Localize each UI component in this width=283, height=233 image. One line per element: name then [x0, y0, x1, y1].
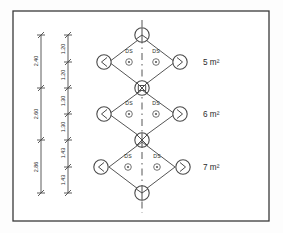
- node-3-right: [176, 160, 190, 174]
- sprinkler-1-left: [126, 59, 133, 66]
- node-3-left: [94, 160, 108, 174]
- outer-dim-label-3: 2.86: [33, 162, 39, 173]
- ds-label-3-left: DS: [124, 153, 132, 159]
- area-label-row-1: 5 m²: [203, 58, 220, 67]
- node-1-top: [135, 28, 149, 42]
- area-label-row-3: 7 m²: [203, 163, 220, 172]
- sprinkler-3-right: [154, 164, 161, 171]
- inner-dim-label-2: 1.20: [60, 70, 66, 81]
- outer-dim-label-1: 2.40: [33, 56, 39, 67]
- figure-container: DS DS: [0, 0, 283, 233]
- node-2-right: [173, 107, 187, 121]
- ds-label-2-left: DS: [125, 100, 133, 106]
- sprinkler-2-left: [126, 111, 133, 118]
- node-junction-2: [135, 133, 149, 147]
- sprinkler-1-right: [153, 59, 160, 66]
- node-1-left: [97, 55, 111, 69]
- sprinkler-3-left: [125, 164, 132, 171]
- node-1-right: [173, 55, 187, 69]
- node-2-left: [97, 107, 111, 121]
- node-3-bottom: [135, 186, 149, 200]
- ds-label-3-right: DS: [153, 153, 161, 159]
- inner-dim-label-4: 1.30: [60, 122, 66, 133]
- ds-label-2-right: DS: [152, 100, 160, 106]
- inner-dim-label-3: 1.30: [60, 96, 66, 107]
- inner-dim-label-6: 1.43: [60, 175, 66, 186]
- inner-dim-label-1: 1.20: [60, 44, 66, 55]
- ds-label-1-left: DS: [125, 48, 133, 54]
- outer-dim-label-2: 2.60: [33, 109, 39, 120]
- diagram-canvas: DS DS: [0, 0, 283, 233]
- area-label-row-2: 6 m²: [203, 110, 220, 119]
- inner-dim-label-5: 1.43: [60, 148, 66, 159]
- ds-label-1-right: DS: [152, 48, 160, 54]
- sprinkler-2-right: [153, 111, 160, 118]
- node-junction-1: [135, 81, 149, 95]
